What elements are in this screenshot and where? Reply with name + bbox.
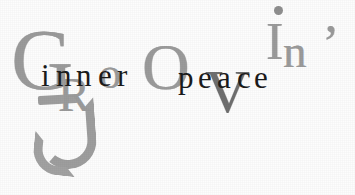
phrase-letter-a: a (217, 62, 231, 93)
phrase-letter-e2: e (198, 62, 212, 93)
phrase-letter-i: i (41, 60, 50, 91)
typographic-artwork: G R o O V I n ’ i n n e r p e a c e (0, 0, 355, 195)
letter-n-lowercase: n (283, 28, 307, 75)
phrase-letter-c: c (237, 62, 251, 93)
phrase-letter-n2: n (76, 60, 92, 91)
g-tail-hook-segment (31, 131, 79, 177)
phrase-letter-e3: e (254, 62, 268, 93)
phrase-letter-e1: e (98, 60, 112, 91)
apostrophe-mark: ’ (322, 18, 339, 70)
letter-i-uppercase: I (266, 16, 283, 68)
phrase-letter-r: r (117, 60, 127, 91)
phrase-letter-p: p (178, 62, 194, 93)
phrase-letter-n1: n (56, 60, 72, 91)
